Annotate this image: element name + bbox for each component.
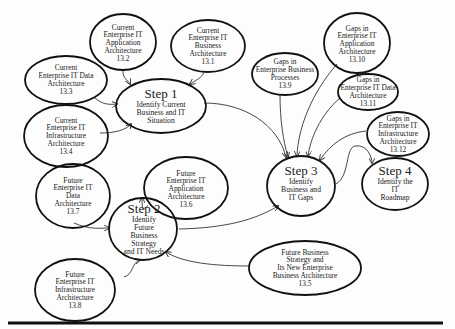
diagram-canvas: Current Enterprise IT Application Archit… <box>0 0 455 329</box>
node-13-5-label: Future Business Strategy and Its New Ent… <box>252 243 358 293</box>
step-title: Step 2 <box>128 202 161 215</box>
node-13-1-label: Current Enterprise IT Business Architect… <box>172 20 244 72</box>
node-13-11-label: Gaps in Enterprise IT Data Architecture … <box>338 74 398 110</box>
label-line: 13.6 <box>180 201 193 209</box>
label-line: 13.5 <box>299 280 312 288</box>
label-line: 13.3 <box>60 88 73 96</box>
step-title: Step 4 <box>379 164 412 177</box>
label-line: 13.8 <box>69 302 82 310</box>
step4-label: Step 4 Identify the IT Roadmap <box>362 160 428 206</box>
label-line: and IT Needs <box>124 248 165 256</box>
label-line: 13.7 <box>67 208 80 216</box>
node-13-7-label: Future Enterprise IT Data Architecture 1… <box>38 168 108 224</box>
label-line: 13.1 <box>202 58 215 66</box>
node-13-8-label: Future Enterprise IT Infrastructure Arch… <box>37 263 113 317</box>
label-line: 13.4 <box>60 148 73 156</box>
step3-label: Step 3 Identify Business and IT Gaps <box>268 158 334 208</box>
label-line: IT Gaps <box>289 194 314 202</box>
node-13-10-label: Gaps in Enterprise IT Application Archit… <box>325 16 389 72</box>
edge-13-11-to-step3 <box>308 98 340 156</box>
label-line: Roadmap <box>380 194 409 202</box>
label-line: 13.11 <box>360 100 376 108</box>
step2-label: Step 2 Identify Future Business Strategy… <box>110 200 178 258</box>
node-13-3-label: Current Enterprise IT Data Architecture … <box>26 58 106 102</box>
step-title: Step 1 <box>145 87 178 100</box>
step1-label: Step 1 Identify Current Business and IT … <box>118 80 204 132</box>
edge-13-5-to-step2 <box>166 252 250 266</box>
label-line: 13.9 <box>279 82 292 90</box>
node-13-9-label: Gaps in Enterprise Business Processes 13… <box>252 54 318 94</box>
step-title: Step 3 <box>285 164 318 177</box>
edge-13-9-to-step3 <box>280 94 288 157</box>
label-line: 13.12 <box>390 146 407 154</box>
label-line: 13.2 <box>117 55 130 63</box>
edge-step1-to-step3 <box>204 103 286 157</box>
edge-13-8-to-step2 <box>124 260 140 277</box>
node-13-12-label: Gaps in Enterprise IT Infrastructure Arc… <box>367 112 429 156</box>
label-line: 13.10 <box>349 56 366 64</box>
node-13-4-label: Current Enterprise IT Infrastructure Arc… <box>26 108 106 164</box>
label-line: Situation <box>147 117 174 125</box>
